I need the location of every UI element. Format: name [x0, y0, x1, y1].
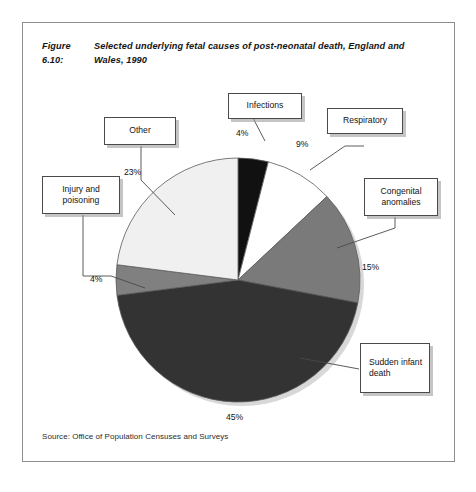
figure-number: Figure 6.10: — [42, 40, 94, 67]
callout-injury-and-poisoning: Injury and poisoning — [42, 176, 120, 214]
callout-other-label: Other — [129, 125, 151, 137]
callout-congenital: Congenital anomalies — [364, 178, 438, 216]
callout-infections: Infections — [228, 93, 302, 119]
callout-respiratory: Respiratory — [327, 108, 403, 134]
percent-label-injury: 4% — [90, 274, 102, 284]
source-note: Source: Office of Population Censuses an… — [42, 432, 228, 441]
callout-congenital-label: Congenital anomalies — [369, 186, 433, 209]
percent-label-other: 23% — [124, 167, 141, 177]
callout-injury-label: Injury and poisoning — [47, 184, 115, 207]
callout-sudden-infant-death: Sudden infant death — [360, 343, 430, 393]
percent-label-sudden: 45% — [226, 412, 243, 422]
percent-label-respiratory: 9% — [296, 139, 308, 149]
callout-sudden-label: Sudden infant death — [369, 357, 425, 380]
figure-title-text: Selected underlying fetal causes of post… — [94, 40, 414, 67]
percent-label-infections: 4% — [236, 128, 248, 138]
callout-other: Other — [104, 117, 176, 145]
percent-label-congenital: 15% — [362, 262, 379, 272]
page-title: Figure 6.10:Selected underlying fetal ca… — [42, 40, 432, 67]
callout-infections-label: Infections — [247, 100, 284, 112]
callout-respiratory-label: Respiratory — [343, 115, 387, 127]
figure-frame — [22, 22, 455, 462]
